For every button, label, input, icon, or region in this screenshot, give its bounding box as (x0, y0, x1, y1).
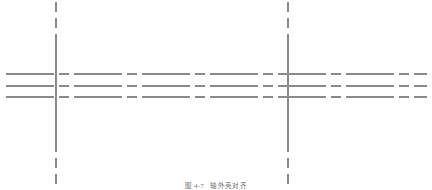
figure-container: 图 4-7轴外壳对齐 (0, 0, 432, 190)
drawing-background (0, 0, 432, 190)
figure-caption-text: 轴外壳对齐 (210, 182, 247, 189)
figure-caption: 图 4-7轴外壳对齐 (0, 181, 432, 190)
engineering-drawing-canvas (0, 0, 432, 190)
figure-caption-label: 图 4-7 (185, 182, 204, 189)
